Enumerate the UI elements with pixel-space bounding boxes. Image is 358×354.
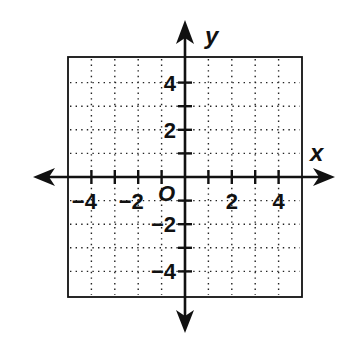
x-tick-label: −4 bbox=[72, 189, 98, 214]
x-tick-label: 4 bbox=[272, 189, 285, 214]
y-tick-label: 4 bbox=[164, 71, 177, 96]
coordinate-plane: y x O −4−224 42−2−4 bbox=[0, 0, 358, 354]
x-axis-label: x bbox=[308, 139, 325, 166]
x-tick-label: 2 bbox=[226, 189, 238, 214]
y-axis-label: y bbox=[204, 22, 220, 49]
origin-label: O bbox=[158, 181, 175, 206]
y-tick-label: 2 bbox=[164, 118, 176, 143]
y-tick-label: −2 bbox=[151, 212, 176, 237]
y-tick-label: −4 bbox=[151, 259, 177, 284]
x-tick-label: −2 bbox=[119, 189, 144, 214]
